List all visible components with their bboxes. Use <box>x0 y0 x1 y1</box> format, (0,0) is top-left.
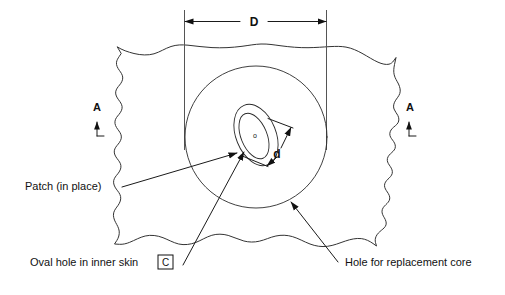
control-symbol-box: C <box>158 255 173 269</box>
center-mark-label: o <box>253 132 257 139</box>
torn-skin-outline <box>113 44 400 247</box>
technical-drawing-canvas: D o d A A <box>0 0 505 295</box>
section-label-left: A <box>93 101 101 113</box>
section-arrow-left: A <box>93 101 104 136</box>
engineering-diagram-svg: D o d A A <box>0 0 505 295</box>
callout-replacement-core-label: Hole for replacement core <box>345 256 472 268</box>
section-label-right: A <box>406 101 414 113</box>
dimension-label-D: D <box>250 15 259 29</box>
callout-oval-hole-label: Oval hole in inner skin <box>30 256 138 268</box>
callout-patch-label: Patch (in place) <box>25 180 101 192</box>
section-arrow-right: A <box>406 101 416 136</box>
dimension-label-d: d <box>273 147 280 161</box>
control-symbol-letter: C <box>162 257 169 268</box>
